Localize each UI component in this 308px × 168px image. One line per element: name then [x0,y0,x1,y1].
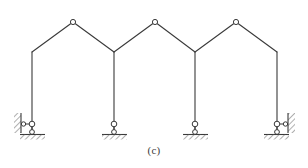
apex-hinges [70,19,238,24]
member-rafter-3 [114,22,155,52]
member-rafter-5 [195,22,236,52]
support-right-wall-hatch [288,113,295,133]
support-left-ground-hatch [20,135,45,140]
support-interior-2-base-pin-icon [193,130,198,135]
hinge-apex-2-icon [152,19,157,24]
frame-members [32,22,277,131]
support-right-wall-pin-icon [283,122,287,126]
hinge-apex-1-icon [70,19,75,24]
frame-diagram [0,0,308,168]
member-rafter-6 [236,22,277,52]
support-left-column-pin-icon [29,121,35,127]
member-rafter-2 [73,22,114,52]
support-right-base-pin-icon [275,130,280,135]
support-left [14,113,45,140]
figure-caption: (c) [0,144,308,156]
support-right-column-pin-icon [274,121,280,127]
support-left-wall-hatch [14,113,21,133]
hinge-apex-3-icon [233,19,238,24]
figure-root: (c) [0,0,308,168]
support-right [264,113,295,140]
member-rafter-4 [155,22,195,52]
support-right-ground-hatch [264,135,289,140]
support-interior-1-top-pin-icon [111,121,117,127]
support-interior-1-base-pin-icon [112,130,117,135]
member-rafter-1 [32,22,73,52]
support-left-base-pin-icon [30,130,35,135]
support-interior-1-ground-hatch [102,135,127,140]
support-interior-2-top-pin-icon [192,121,198,127]
support-interior-2 [183,121,208,139]
support-left-wall-pin-icon [21,122,25,126]
support-interior-1 [102,121,127,139]
support-interior-2-ground-hatch [183,135,208,140]
